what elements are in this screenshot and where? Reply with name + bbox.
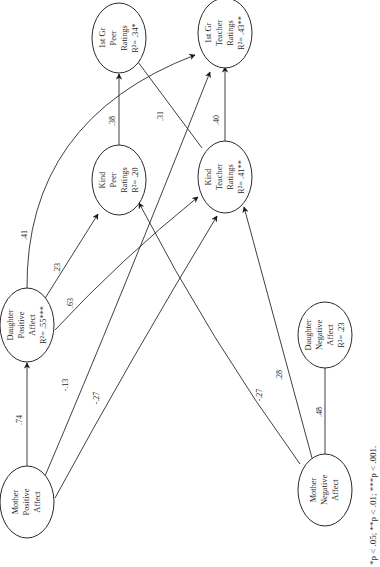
significance-footnote: *p < .05; **p < .01; ***p < .001.: [368, 446, 378, 565]
node-label-line: Teacher: [215, 164, 224, 191]
coef-mna-ktr: .28: [275, 370, 284, 380]
node-kind-peer-ratings: Kind Peer Ratings R²= .20: [92, 145, 146, 215]
coef-dpa-ktr: .63: [66, 298, 75, 308]
node-label-line: Kind: [98, 171, 107, 189]
node-label-line: Affect: [326, 324, 335, 346]
node-label-line: Affect: [28, 314, 37, 336]
node-label-line: Kind: [204, 168, 213, 186]
node-label-line: Positive: [22, 488, 31, 515]
node-r2: R²= .23: [337, 322, 346, 347]
node-label-line: Peer: [109, 172, 118, 187]
node-label-line: Ratings: [226, 164, 235, 190]
node-label-line: Positive: [17, 311, 26, 338]
coef-mpa-gtr: -.13: [61, 379, 70, 392]
node-label-line: 1st Gr: [204, 22, 213, 43]
node-1st-grade-teacher-ratings: 1st Gr Teacher Ratings R²= .43**: [198, 0, 252, 68]
coef-dpa-gtr: .41: [20, 230, 29, 240]
node-r2: R²= .41**: [237, 160, 246, 194]
edge-mpa-ktr: [55, 216, 217, 498]
node-label-line: Daughter: [6, 309, 15, 340]
node-label-line: 1st Gr: [98, 27, 107, 48]
coef-mpa-ktr: -.27: [92, 392, 101, 405]
coef-mna-kpr: -.27: [255, 389, 264, 402]
node-label-line: Ratings: [120, 167, 129, 193]
edge-dpa-kpr: [44, 214, 98, 300]
node-label-line: Affect: [33, 491, 42, 513]
coef-kpr-gpr: .38: [108, 116, 117, 126]
edge-dpa-ktr: [55, 197, 198, 330]
node-mother-negative-affect: Mother Negative Affect: [298, 454, 352, 526]
node-label-line: Affect: [331, 479, 340, 501]
node-mother-positive-affect: Mother Positive Affect: [0, 466, 54, 538]
node-label-line: Negative: [315, 320, 324, 351]
node-label-line: Peer: [109, 30, 118, 45]
edge-ktr-gpr: [135, 58, 202, 148]
node-r2: R²= .20: [131, 167, 140, 192]
node-kind-teacher-ratings: Kind Teacher Ratings R²= .41**: [198, 141, 252, 213]
coef-dpa-kpr: .23: [53, 263, 62, 273]
node-r2: R²= .34*: [131, 23, 140, 53]
node-label-line: Mother: [11, 489, 20, 514]
coef-ktr-gtr: .40: [212, 115, 221, 125]
node-daughter-positive-affect: Daughter Positive Affect R²= .55***: [0, 288, 54, 362]
edges: [27, 55, 325, 498]
node-r2: R²= .55***: [39, 306, 48, 344]
node-r2: R²= .43**: [237, 16, 246, 50]
node-label-line: Negative: [320, 475, 329, 506]
node-label-line: Teacher: [215, 20, 224, 47]
node-label-line: Ratings: [120, 25, 129, 51]
node-label-line: Ratings: [226, 20, 235, 46]
node-daughter-negative-affect: Daughter Negative Affect R²= .23: [298, 302, 352, 368]
coef-mna-dna: .48: [315, 407, 324, 417]
coef-ktr-gpr: .31: [156, 111, 165, 121]
node-label-line: Mother: [309, 477, 318, 502]
edge-mna-kpr: [139, 203, 300, 464]
coef-mpa-dpa: .74: [15, 415, 24, 425]
coefficients: .74 -.13 -.27 .41 .23 .63 .38 .31 .40 -.…: [15, 111, 324, 425]
node-label-line: Daughter: [304, 319, 313, 350]
path-diagram: .74 -.13 -.27 .41 .23 .63 .38 .31 .40 -.…: [0, 0, 380, 567]
node-1st-grade-peer-ratings: 1st Gr Peer Ratings R²= .34*: [92, 3, 146, 73]
edge-mpa-gtr: [45, 72, 210, 476]
